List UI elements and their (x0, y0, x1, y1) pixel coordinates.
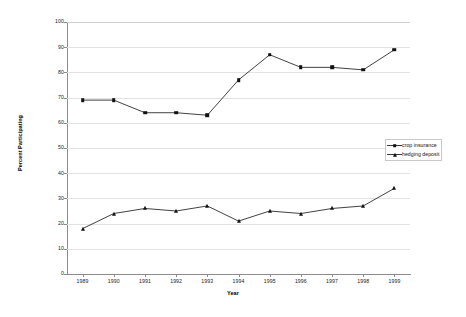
data-point-marker (237, 219, 241, 223)
data-point-marker (361, 204, 365, 208)
y-axis-title: Percent Participating (17, 83, 23, 203)
chart-legend: crop insurance hedging deposit (385, 139, 442, 161)
legend-label-hedging-deposit: hedging deposit (402, 152, 439, 157)
data-point-marker (237, 78, 241, 82)
data-point-marker (112, 211, 116, 215)
square-marker-icon (387, 141, 402, 150)
data-point-marker (206, 113, 210, 117)
data-point-marker (205, 204, 209, 208)
data-point-marker (393, 48, 397, 52)
data-point-marker (81, 98, 85, 102)
data-point-marker (143, 206, 147, 210)
line-chart: 1009080706050403020100 19891990199119921… (0, 0, 466, 317)
x-axis-title: Year (0, 290, 466, 296)
data-point-marker (112, 98, 116, 102)
legend-label-crop-insurance: crop insurance (402, 143, 437, 148)
data-point-marker (174, 209, 178, 213)
data-point-marker (330, 66, 334, 70)
legend-item-crop-insurance: crop insurance (387, 141, 439, 150)
legend-item-hedging-deposit: hedging deposit (387, 150, 439, 159)
data-point-marker (361, 68, 365, 72)
data-point-marker (299, 66, 303, 70)
data-point-marker (81, 226, 85, 230)
data-point-marker (330, 206, 334, 210)
data-point-marker (143, 111, 147, 115)
data-point-marker (268, 209, 272, 213)
data-point-marker (392, 186, 396, 190)
triangle-marker-icon (387, 150, 402, 159)
data-point-marker (299, 211, 303, 215)
data-point-marker (268, 53, 272, 57)
data-point-marker (174, 111, 178, 115)
